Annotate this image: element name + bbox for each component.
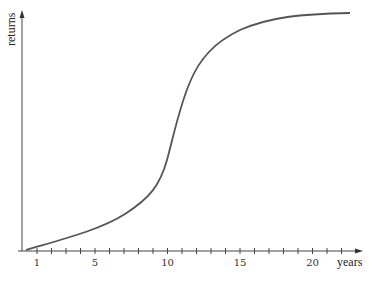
x-axis-label: years	[337, 255, 363, 269]
x-tick-label: 15	[234, 257, 247, 268]
returns-curve	[26, 13, 350, 250]
x-tick-label: 5	[92, 257, 98, 268]
x-tick-label: 1	[34, 257, 40, 268]
x-axis-arrow-icon	[355, 249, 363, 254]
s-curve-chart: 15101520 returns years	[0, 0, 374, 282]
y-axis-arrow-icon	[20, 10, 25, 18]
x-tick-label: 20	[306, 257, 319, 268]
y-axis-label: returns	[4, 12, 18, 46]
x-axis-tick-labels: 15101520	[34, 257, 319, 268]
x-tick-label: 10	[161, 257, 174, 268]
